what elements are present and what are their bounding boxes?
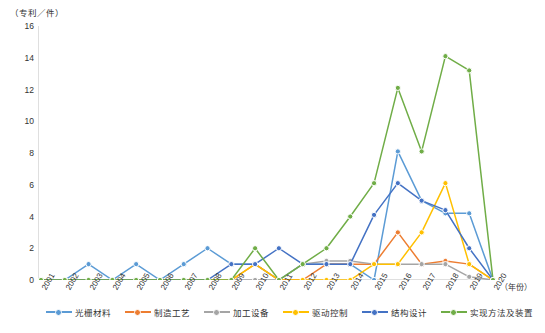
y-tick-label: 4 [8,212,34,222]
legend-label: 实现方法及装置 [470,306,533,318]
data-point [86,277,91,280]
series-0 [38,149,495,280]
plot-area: 0246810121416200120022003200420052006200… [38,26,496,280]
data-point [395,85,400,90]
data-point [181,262,186,267]
data-point [419,198,424,203]
legend-label: 加工设备 [233,306,269,318]
y-tick-label: 10 [8,116,34,126]
legend-swatch-icon [46,307,72,317]
data-point [443,54,448,59]
data-point [253,262,258,267]
data-point [371,212,376,217]
legend-swatch-icon [125,307,151,317]
legend-item-0[interactable]: 光栅材料 [46,306,111,318]
chart-legend: 光栅材料制造工艺加工设备驱动控制结构设计实现方法及装置 [46,306,506,318]
data-point [395,262,400,267]
data-point [443,208,448,213]
y-tick-label: 2 [8,243,34,253]
legend-label: 光栅材料 [75,306,111,318]
y-tick-label: 16 [8,21,34,31]
data-point [419,262,424,267]
y-tick-label: 14 [8,53,34,63]
series-5 [38,54,495,280]
data-point [443,181,448,186]
data-point [419,230,424,235]
y-tick-label: 12 [8,85,34,95]
legend-label: 制造工艺 [154,306,190,318]
data-point [443,262,448,267]
data-point [348,262,353,267]
data-point [300,262,305,267]
data-point [467,68,472,73]
legend-swatch-icon [362,307,388,317]
data-point [276,246,281,251]
data-point [181,277,186,280]
data-point [467,262,472,267]
data-point [205,246,210,251]
legend-item-2[interactable]: 加工设备 [204,306,269,318]
data-point [395,230,400,235]
data-point [205,277,210,280]
legend-item-4[interactable]: 结构设计 [362,306,427,318]
data-point [134,262,139,267]
y-tick-label: 0 [8,275,34,285]
data-point [467,274,472,279]
data-point [324,262,329,267]
data-point [419,149,424,154]
data-point [348,214,353,219]
legend-item-5[interactable]: 实现方法及装置 [441,306,533,318]
y-tick-label: 6 [8,180,34,190]
legend-label: 驱动控制 [312,306,348,318]
legend-swatch-icon [441,307,467,317]
line-chart-svg [38,26,496,280]
data-point [229,262,234,267]
data-point [371,262,376,267]
y-axis-title: （专利／件） [10,6,64,18]
data-point [395,181,400,186]
axis-lines [38,26,496,280]
data-point [371,181,376,186]
legend-item-1[interactable]: 制造工艺 [125,306,190,318]
chart-container: （专利／件） （年份） 0246810121416200120022003200… [0,0,545,333]
legend-swatch-icon [283,307,309,317]
data-point [395,149,400,154]
data-point [62,277,67,280]
legend-swatch-icon [204,307,230,317]
data-point [467,211,472,216]
data-point [253,246,258,251]
legend-label: 结构设计 [391,306,427,318]
y-tick-label: 8 [8,148,34,158]
data-point [467,246,472,251]
legend-item-3[interactable]: 驱动控制 [283,306,348,318]
data-point [300,277,305,280]
data-point [86,262,91,267]
data-point [324,246,329,251]
